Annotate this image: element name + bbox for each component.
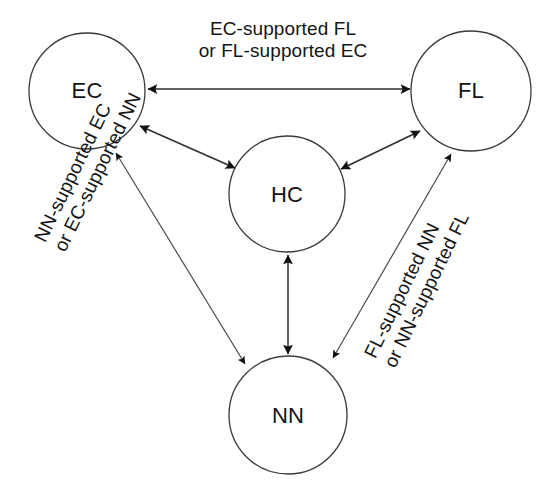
edge-hc-fl [341,131,420,169]
node-fl[interactable]: FL [411,31,531,151]
edge-label-ec-fl-line2: or FL-supported EC [168,40,398,62]
edge-label-ec-fl-line1: EC-supported FL [168,18,398,40]
edge-ec-nn [116,153,245,364]
node-nn[interactable]: NN [229,356,347,474]
edge-ec-nn-line [116,153,245,364]
edge-hc-fl-line [341,131,420,169]
diagram-canvas: EC FL HC NN EC-supported FL or FL-suppor… [0,0,554,490]
node-nn-label: NN [272,403,304,428]
diagram-svg: EC FL HC NN [0,0,554,490]
node-fl-label: FL [458,78,484,103]
node-hc-label: HC [271,182,303,207]
edge-ec-hc [140,126,235,168]
node-hc[interactable]: HC [229,136,345,252]
edge-label-ec-fl: EC-supported FL or FL-supported EC [168,18,398,63]
edge-ec-hc-line [140,126,235,168]
